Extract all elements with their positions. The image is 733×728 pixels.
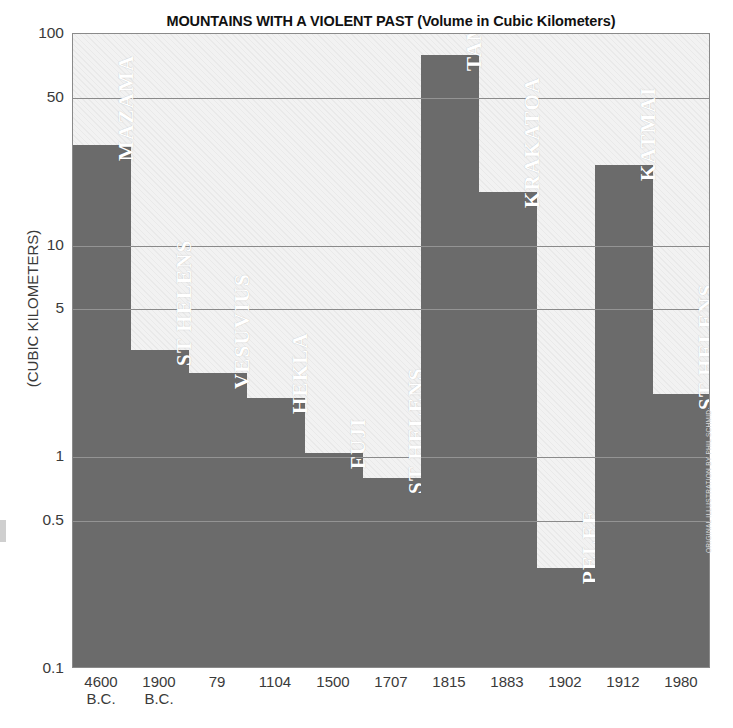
bar-label: ST HELENS — [694, 283, 710, 410]
bar-tambora-1815[interactable]: TAMBORA — [421, 55, 479, 669]
bar-label: MAZAMA — [114, 54, 139, 160]
x-tick-year: 4600 — [84, 673, 117, 690]
y-tick-label: 0.1 — [8, 659, 64, 677]
bar-label: FUJI — [346, 417, 371, 468]
x-tick-label: 1912 — [594, 673, 652, 690]
x-tick-era: B.C. — [72, 690, 130, 707]
x-tick-year: 79 — [209, 673, 226, 690]
gridline-overlay — [73, 309, 709, 310]
bar-label: VESUVIUS — [230, 273, 255, 389]
bar-mazama-4600[interactable]: MAZAMA — [73, 145, 131, 668]
gridline-overlay — [73, 98, 709, 99]
x-tick-label: 1104 — [246, 673, 304, 690]
x-tick-era: B.C. — [130, 690, 188, 707]
bar-label: HEKLA — [288, 332, 313, 414]
x-tick-label: 1900B.C. — [130, 673, 188, 707]
x-tick-label: 79 — [188, 673, 246, 690]
bar-label: KATMAI — [636, 87, 661, 181]
y-axis-title: (CUBIC KILOMETERS) — [24, 189, 41, 429]
y-tick-label: 100 — [8, 24, 64, 42]
x-tick-year: 1500 — [316, 673, 349, 690]
bar-katmai-1912[interactable]: KATMAI — [595, 165, 653, 668]
x-tick-year: 1104 — [259, 673, 291, 690]
gridline-overlay — [73, 521, 709, 522]
bar-label: TAMBORA — [462, 33, 487, 71]
bar-hekla-1104[interactable]: HEKLA — [247, 398, 305, 668]
credit-text: ORIGINAL ILLUSTRATION BY PHIL SCHMID — [705, 410, 712, 553]
bar-krakatoa-1883[interactable]: KRAKATOA — [479, 192, 537, 668]
bar-pelee-1902[interactable]: PELEE — [537, 568, 595, 668]
x-tick-label: 1500 — [304, 673, 362, 690]
x-tick-label: 1902 — [536, 673, 594, 690]
y-tick-label: 0.5 — [8, 511, 64, 529]
x-tick-year: 1707 — [374, 673, 407, 690]
chart-title: MOUNTAINS WITH A VIOLENT PAST (Volume in… — [72, 13, 710, 29]
chart-root: MOUNTAINS WITH A VIOLENT PAST (Volume in… — [0, 0, 733, 728]
gridline-overlay — [73, 246, 709, 247]
x-tick-year: 1900 — [142, 673, 175, 690]
bar-label: ST HELENS — [172, 240, 197, 367]
x-tick-year: 1883 — [490, 673, 523, 690]
bar-fuji-1500[interactable]: FUJI — [305, 453, 363, 668]
x-tick-year: 1902 — [548, 673, 581, 690]
x-tick-year: 1980 — [664, 673, 697, 690]
x-tick-label: 1980 — [652, 673, 710, 690]
x-tick-label: 4600B.C. — [72, 673, 130, 707]
y-tick-label: 50 — [8, 88, 64, 106]
x-tick-label: 1707 — [362, 673, 420, 690]
bar-st-helens-1900[interactable]: ST HELENS — [131, 350, 189, 668]
plot-area: MAZAMAST HELENSVESUVIUSHEKLAFUJIST HELEN… — [72, 33, 710, 668]
gridline-overlay — [73, 457, 709, 458]
x-tick-label: 1883 — [478, 673, 536, 690]
x-axis-ticks: 4600B.C.1900B.C.791104150017071815188319… — [72, 673, 710, 723]
x-tick-year: 1815 — [432, 673, 465, 690]
scan-artifact — [0, 520, 6, 542]
x-tick-label: 1815 — [420, 673, 478, 690]
y-tick-label: 1 — [8, 447, 64, 465]
bar-label: KRAKATOA — [520, 76, 545, 207]
bar-st-helens-1707[interactable]: ST HELENS — [363, 478, 421, 668]
x-tick-year: 1912 — [606, 673, 639, 690]
bar-st-helens-1980[interactable]: ST HELENS — [653, 394, 710, 668]
